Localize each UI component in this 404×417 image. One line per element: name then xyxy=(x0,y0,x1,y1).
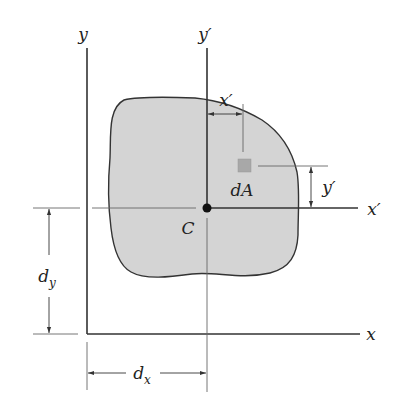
label-y-prime-axis: y′ xyxy=(197,24,212,44)
label-y-prime-dim: y′ xyxy=(321,177,336,197)
parallel-axis-diagram: y y′ x x′ C dA x′ y′ dy dx xyxy=(0,0,404,417)
label-x-prime-axis: x′ xyxy=(367,199,381,219)
label-centroid: C xyxy=(181,218,194,238)
label-dy: dy xyxy=(38,266,56,290)
label-x-prime-dim: x′ xyxy=(219,90,233,110)
area-element-dA xyxy=(238,159,251,172)
label-dA: dA xyxy=(230,180,253,200)
label-x-axis: x xyxy=(366,324,376,344)
label-y-axis: y xyxy=(77,24,88,44)
centroid-point xyxy=(203,204,212,213)
label-dx: dx xyxy=(133,363,151,387)
area-shape xyxy=(109,97,299,277)
